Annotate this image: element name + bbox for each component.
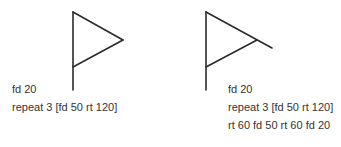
code-line: repeat 3 [fd 50 rt 120] bbox=[12, 98, 117, 116]
code-line: fd 20 bbox=[228, 80, 333, 98]
code-line: fd 20 bbox=[12, 80, 117, 98]
right-flag-bottom-edge bbox=[206, 40, 257, 67]
left-flag bbox=[73, 12, 123, 90]
code-line: rt 60 fd 50 rt 60 fd 20 bbox=[228, 116, 333, 134]
right-flag bbox=[206, 12, 272, 90]
left-flag-bottom-edge bbox=[73, 40, 123, 67]
right-code-block: fd 20 repeat 3 [fd 50 rt 120] rt 60 fd 5… bbox=[228, 80, 333, 134]
right-flag-top-edge-extended bbox=[206, 12, 272, 48]
left-flag-top-edge bbox=[73, 12, 123, 40]
code-line: repeat 3 [fd 50 rt 120] bbox=[228, 98, 333, 116]
left-code-block: fd 20 repeat 3 [fd 50 rt 120] bbox=[12, 80, 117, 116]
